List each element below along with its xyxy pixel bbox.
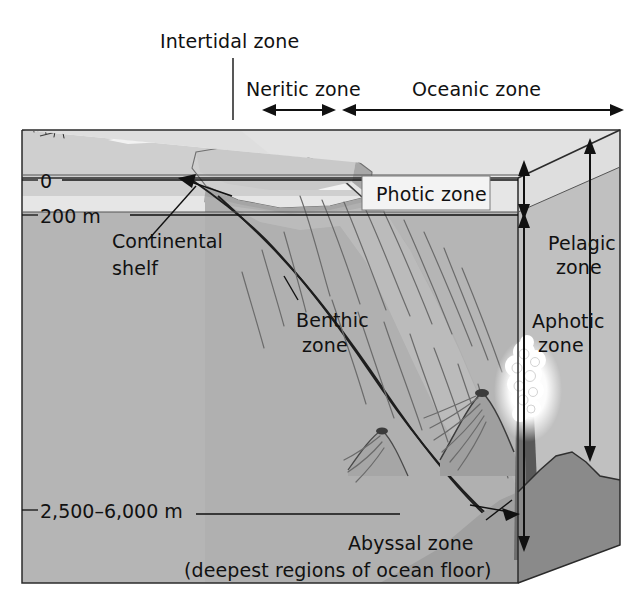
aphotic-zone-label-line2: zone <box>538 334 584 356</box>
vent-cone-peak-mid <box>376 428 388 435</box>
oceanic-zone-label: Oceanic zone <box>412 78 541 100</box>
continental-shelf-label-line1: Continental <box>112 230 223 252</box>
abyssal-zone-sublabel: (deepest regions of ocean floor) <box>184 559 492 581</box>
aphotic-zone-label-line1: Aphotic <box>532 310 605 332</box>
abyssal-zone-label: Abyssal zone <box>348 532 474 554</box>
depth-label-abyssal: 2,500–6,000 m <box>40 500 183 522</box>
depth-label-0: 0 <box>40 170 52 192</box>
ocean-zones-diagram: 0 200 m 2,500–6,000 m Intertidal zone Ne… <box>0 0 639 605</box>
benthic-zone-label-line2: zone <box>302 334 348 356</box>
vent-cone-peak-left <box>475 389 489 397</box>
photic-zone-label: Photic zone <box>376 183 487 205</box>
intertidal-zone-label: Intertidal zone <box>160 30 299 52</box>
benthic-zone-label-line1: Benthic <box>296 309 369 331</box>
depth-label-200: 200 m <box>40 205 101 227</box>
pelagic-zone-label-line1: Pelagic <box>548 232 616 254</box>
continental-shelf-label-line2: shelf <box>112 257 159 279</box>
neritic-zone-label: Neritic zone <box>246 78 361 100</box>
ocean-zones-illustration: 0 200 m 2,500–6,000 m Intertidal zone Ne… <box>0 0 639 605</box>
pelagic-zone-label-line2: zone <box>556 256 602 278</box>
